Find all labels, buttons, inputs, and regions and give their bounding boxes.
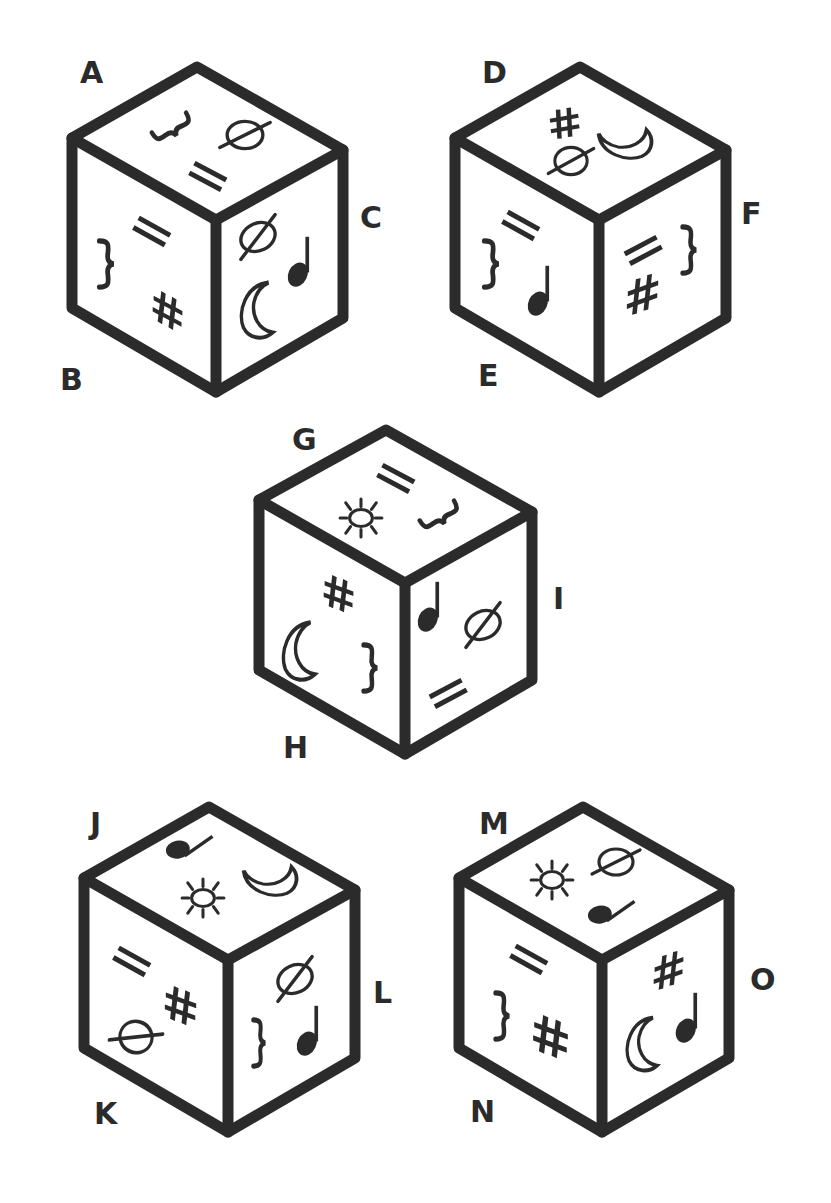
cube-1 <box>72 67 343 392</box>
label-l: L <box>373 975 392 1010</box>
cube-outline <box>84 807 355 1132</box>
label-j: J <box>88 806 101 841</box>
cube-3 <box>259 430 532 754</box>
label-a: A <box>80 55 104 90</box>
cube-5 <box>459 807 729 1132</box>
label-h: H <box>283 730 308 765</box>
label-n: N <box>470 1094 495 1129</box>
label-k: K <box>94 1096 119 1131</box>
label-d: D <box>482 55 507 90</box>
label-m: M <box>479 806 509 841</box>
cube-outline <box>72 67 343 392</box>
cube-outline <box>459 807 729 1132</box>
cube-2 <box>455 67 726 392</box>
label-i: I <box>553 581 564 616</box>
label-f: F <box>741 196 762 231</box>
label-o: O <box>750 962 776 997</box>
label-b: B <box>60 362 83 397</box>
cube-outline <box>259 430 532 754</box>
label-g: G <box>292 422 317 457</box>
label-e: E <box>478 358 499 393</box>
puzzle-figure: A C B D F E G I <box>0 0 831 1203</box>
label-c: C <box>360 200 382 235</box>
cube-4 <box>84 807 355 1132</box>
